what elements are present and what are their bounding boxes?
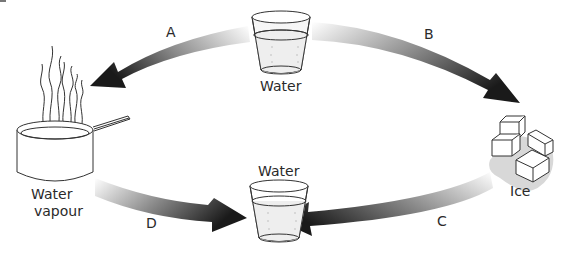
ice-label: Ice <box>510 183 530 199</box>
water-cycle-diagram: A B C D Water Water Water vapour Ice <box>0 0 565 253</box>
arrow-c <box>277 172 493 236</box>
arrow-a-label: A <box>166 24 176 40</box>
arrow-b-label: B <box>424 26 434 42</box>
bottom-water-label: Water <box>258 163 299 179</box>
water-vapour-label-line1: Water <box>31 186 72 202</box>
arrow-b <box>312 22 520 103</box>
arrow-d <box>95 178 247 232</box>
top-water-glass-icon <box>252 11 310 74</box>
top-water-label: Water <box>260 78 301 94</box>
ice-cubes-icon <box>489 116 553 192</box>
diagram-graphics <box>0 0 565 253</box>
water-vapour-label-line2: vapour <box>34 203 83 219</box>
arrow-c-label: C <box>437 213 447 229</box>
bottom-water-glass-icon <box>250 180 308 242</box>
arrow-d-label: D <box>146 215 157 231</box>
